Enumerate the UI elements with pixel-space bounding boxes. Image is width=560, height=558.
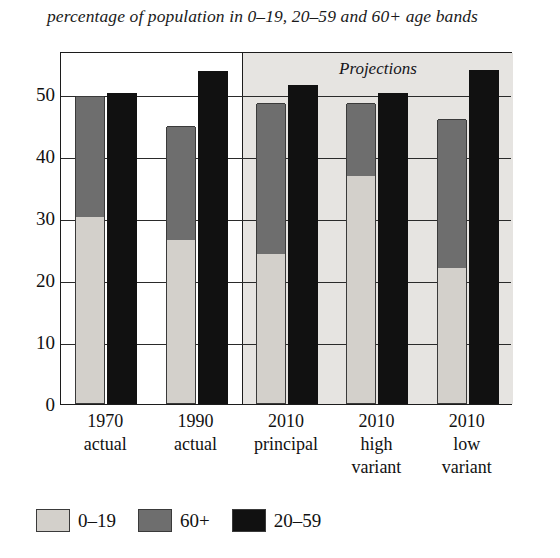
x-tick-label-line: 1970 [60,410,150,433]
bar-segment-60-plus [76,96,104,217]
bar-group [332,53,422,404]
x-tick-label-line: 1990 [150,410,240,433]
y-tick-label: 20 [11,270,55,292]
bar-stacked-age-bands [346,104,376,404]
bar-group [151,53,241,404]
x-tick-label-line: high [331,433,421,456]
chart-figure: percentage of population in 0–19, 20–59 … [0,0,560,558]
bar-stacked-age-bands [166,127,196,404]
chart-title: percentage of population in 0–19, 20–59 … [47,6,547,27]
x-axis-labels: 1970actual1990actual2010principal2010hig… [60,410,512,490]
x-tick-label-line: variant [422,456,512,479]
bar-segment-20-59 [378,93,408,405]
bar-segment-60-plus [167,126,195,241]
bar-segment-20-59 [198,71,228,404]
legend-swatch [36,509,70,532]
legend-swatch [232,509,266,532]
bar-segment-60-plus [438,119,466,268]
legend-swatch [138,509,172,532]
bar-segment-0-19 [257,254,285,403]
chart-legend: 0–1960+20–59 [36,509,343,532]
x-tick-label-line: variant [331,456,421,479]
bar-group [61,53,151,404]
bar-segment-60-plus [257,103,285,255]
x-tick-label-line: low [422,433,512,456]
y-tick-label: 0 [11,394,55,416]
bar-group [423,53,513,404]
bar-stacked-age-bands [437,120,467,404]
x-tick-label: 2010principal [241,410,331,456]
legend-label: 20–59 [274,510,322,532]
bar-segment-60-plus [347,103,375,176]
x-tick-label-line: actual [150,433,240,456]
legend-item: 0–19 [36,509,116,532]
bar-group [242,53,332,404]
legend-item: 60+ [138,509,210,532]
y-tick-label: 50 [11,84,55,106]
x-tick-label-line: actual [60,433,150,456]
bar-segment-20-59 [288,85,318,404]
x-tick-label: 2010highvariant [331,410,421,479]
x-tick-label-line: 2010 [241,410,331,433]
x-tick-label: 1970actual [60,410,150,456]
x-tick-label-line: 2010 [422,410,512,433]
bar-segment-0-19 [76,217,104,403]
bar-segment-0-19 [438,268,466,403]
x-tick-label-line: principal [241,433,331,456]
legend-label: 60+ [180,510,210,532]
x-tick-label: 2010lowvariant [422,410,512,479]
plot-area: Projections [60,52,512,405]
bar-segment-0-19 [167,240,195,403]
legend-item: 20–59 [232,509,322,532]
y-tick-label: 30 [11,208,55,230]
bar-segment-20-59 [469,70,499,404]
bar-segment-20-59 [107,93,137,405]
y-tick-label: 10 [11,332,55,354]
bars-layer [61,53,511,404]
x-tick-label: 1990actual [150,410,240,456]
y-axis: 01020304050 [0,52,55,405]
bar-stacked-age-bands [75,97,105,404]
x-tick-label-line: 2010 [331,410,421,433]
bar-stacked-age-bands [256,104,286,404]
legend-label: 0–19 [78,510,116,532]
bar-segment-0-19 [347,176,375,403]
y-tick-label: 40 [11,146,55,168]
